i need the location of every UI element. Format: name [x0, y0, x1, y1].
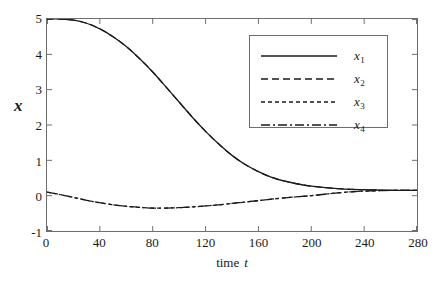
- x-tick-label: 120: [196, 236, 216, 249]
- x-axis-label-symbol: t: [244, 255, 248, 270]
- y-tick-label: 2: [36, 119, 43, 132]
- legend-item-x3[interactable]: x3: [250, 90, 387, 113]
- x-axis-label: timet: [46, 255, 418, 271]
- legend-label-subscript: 4: [360, 124, 365, 134]
- x-axis-label-text: time: [216, 255, 239, 270]
- legend-label-x2: x2: [354, 71, 364, 87]
- y-axis-label: x: [14, 96, 23, 116]
- y-tick-label: 1: [36, 154, 43, 167]
- legend-line-sample-x2: [260, 73, 338, 85]
- legend-label-x3: x3: [354, 94, 364, 110]
- chart-figure: -1012345 x 04080120160200240280 timet x1…: [0, 0, 440, 284]
- legend-item-x4[interactable]: x4: [250, 113, 387, 136]
- legend-label-x1: x1: [354, 48, 364, 64]
- y-tick-label: 0: [36, 190, 43, 203]
- series-line-x3: [47, 190, 417, 208]
- legend-line-sample-x4: [260, 119, 338, 131]
- legend-label-subscript: 1: [360, 55, 365, 65]
- y-tick-label: 3: [36, 83, 43, 96]
- x-tick-label: 40: [93, 236, 106, 249]
- chart-legend: x1x2x3x4: [249, 35, 388, 128]
- y-axis-tick-labels: -1012345: [0, 18, 42, 232]
- legend-label-subscript: 2: [360, 78, 365, 88]
- series-line-x4: [47, 190, 417, 208]
- y-tick-label: 4: [36, 47, 43, 60]
- legend-item-x1[interactable]: x1: [250, 44, 387, 67]
- legend-label-x4: x4: [354, 117, 364, 133]
- legend-label-subscript: 3: [360, 101, 365, 111]
- legend-line-sample-x3: [260, 96, 338, 108]
- y-tick-label: -1: [31, 226, 42, 239]
- x-tick-label: 80: [146, 236, 159, 249]
- legend-item-x2[interactable]: x2: [250, 67, 387, 90]
- x-tick-label: 200: [302, 236, 322, 249]
- x-tick-label: 0: [43, 236, 50, 249]
- x-tick-label: 160: [249, 236, 269, 249]
- x-axis-tick-labels: 04080120160200240280: [46, 236, 418, 254]
- y-tick-label: 5: [36, 12, 43, 25]
- x-tick-label: 280: [408, 236, 428, 249]
- legend-line-sample-x1: [260, 50, 338, 62]
- x-tick-label: 240: [355, 236, 375, 249]
